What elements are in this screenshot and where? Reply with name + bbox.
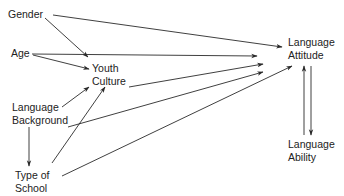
edge-gender-to-language-attitude xyxy=(53,15,282,47)
node-age: Age xyxy=(11,47,30,60)
node-age-label: Age xyxy=(11,47,30,59)
node-youth-culture: Youth Culture xyxy=(92,62,126,87)
edge-gender-to-youth-culture xyxy=(45,18,88,57)
node-language-attitude-line2: Attitude xyxy=(288,49,335,62)
node-type-of-school-line2: School xyxy=(15,182,49,195)
node-language-background: Language Background xyxy=(12,101,68,126)
node-language-ability: Language Ability xyxy=(288,138,335,163)
edge-age-to-youth-culture xyxy=(33,55,89,69)
node-language-attitude: Language Attitude xyxy=(288,36,335,61)
path-diagram-edges xyxy=(0,0,344,196)
edge-youth-culture-to-language-attitude xyxy=(129,64,263,87)
edge-age-to-language-attitude xyxy=(32,54,257,56)
node-language-ability-line2: Ability xyxy=(288,151,335,164)
node-language-background-line2: Background xyxy=(12,114,68,127)
node-language-background-line1: Language xyxy=(12,101,68,114)
node-type-of-school-line1: Type of xyxy=(15,169,49,182)
node-youth-culture-line1: Youth xyxy=(92,62,126,75)
node-gender-label: Gender xyxy=(8,8,43,20)
node-type-of-school: Type of School xyxy=(15,169,49,194)
node-youth-culture-line2: Culture xyxy=(92,75,126,88)
node-language-ability-line1: Language xyxy=(288,138,335,151)
node-gender: Gender xyxy=(8,8,43,21)
node-language-attitude-line1: Language xyxy=(288,36,335,49)
